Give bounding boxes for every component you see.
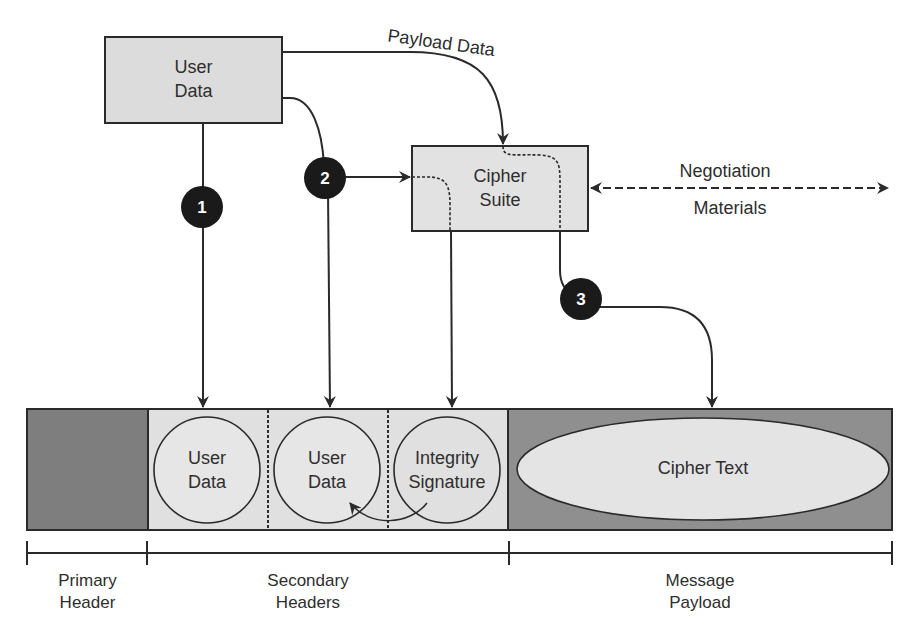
primary-header-label: Primary Header — [27, 570, 148, 614]
secondary-headers-label: Secondary Headers — [248, 570, 368, 614]
payload-data-arrow — [282, 52, 503, 144]
step2-line-in — [282, 98, 324, 165]
integrity-arrow — [451, 231, 452, 407]
svg-text:3: 3 — [576, 290, 585, 309]
svg-text:2: 2 — [320, 169, 329, 188]
user-data-box-label: User Data — [105, 55, 282, 103]
step-badge-3: 3 — [560, 278, 602, 320]
negotiation-label: Negotiation — [660, 160, 790, 182]
message-payload-label: Message Payload — [640, 570, 760, 614]
user-data-field-2-label: User Data — [277, 446, 377, 494]
step2-arrow-down — [328, 190, 330, 407]
step3-arrow — [593, 307, 712, 407]
section-brackets — [27, 541, 892, 565]
cipher-suite-box-label: Cipher Suite — [412, 164, 588, 212]
materials-label: Materials — [660, 197, 800, 219]
user-data-field-1-label: User Data — [157, 446, 257, 494]
cipher-text-label: Cipher Text — [603, 457, 803, 479]
primary-header-field — [27, 409, 148, 530]
integrity-signature-field-label: Integrity Signature — [390, 446, 504, 494]
step-badge-2: 2 — [304, 157, 346, 199]
svg-text:1: 1 — [197, 198, 206, 217]
step-badge-1: 1 — [181, 186, 223, 228]
